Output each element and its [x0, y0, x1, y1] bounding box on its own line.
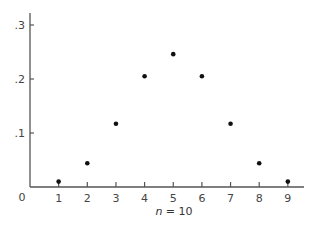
x-tick-label: 2 [84, 192, 91, 205]
data-point [85, 161, 90, 166]
data-point [142, 74, 147, 79]
y-ticks: .1.2.3 [15, 19, 35, 140]
binomial-distribution-chart: .1.2.3 123456789 0 n = 10 [0, 0, 319, 227]
x-tick-label: 6 [198, 192, 205, 205]
data-point [286, 179, 291, 184]
data-point [257, 161, 262, 166]
x-ticks: 123456789 [55, 182, 291, 205]
y-tick-label: .1 [15, 127, 26, 140]
x-axis-label-value: = 10 [162, 205, 192, 218]
data-point [56, 179, 61, 184]
data-point [228, 122, 233, 127]
data-point [171, 52, 176, 57]
x-tick-label: 8 [256, 192, 263, 205]
origin-label: 0 [19, 191, 26, 204]
x-axis-label-variable: n [155, 205, 162, 218]
x-tick-label: 5 [170, 192, 177, 205]
x-tick-label: 9 [284, 192, 291, 205]
x-tick-label: 7 [227, 192, 234, 205]
axes [30, 13, 304, 187]
x-tick-label: 3 [112, 192, 119, 205]
y-tick-label: .2 [15, 73, 26, 86]
x-tick-label: 1 [55, 192, 62, 205]
data-points [56, 52, 290, 184]
x-tick-label: 4 [141, 192, 148, 205]
data-point [200, 74, 205, 79]
x-axis-label: n = 10 [155, 205, 192, 218]
y-tick-label: .3 [15, 19, 26, 32]
data-point [114, 122, 119, 127]
